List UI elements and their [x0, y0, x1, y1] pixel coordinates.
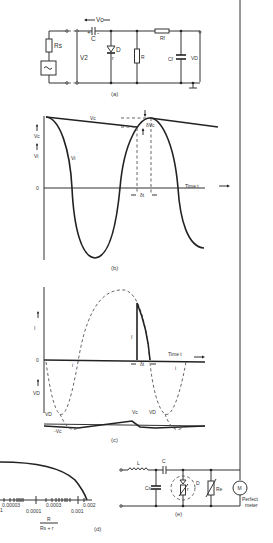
label-vd-axis: VD [33, 390, 40, 396]
graph-c: I 0 I i i δt Time t VD VD -Vc Vc VD (c) [33, 287, 205, 443]
label-d: D [116, 46, 121, 53]
label-vc-2: Vc [132, 409, 138, 415]
label-vc: Vc [96, 16, 104, 23]
label-vd: VD [191, 55, 198, 61]
label-meter-2: meter [245, 502, 258, 508]
label-vi-axis: Vi [34, 153, 38, 159]
label-delta-t: δt [140, 192, 145, 198]
label-l: L [137, 460, 140, 466]
label-cs: Cs [145, 485, 152, 491]
diode-icon [107, 46, 115, 52]
label-c: C [91, 35, 96, 42]
caption-a: (a) [111, 91, 118, 97]
label-vc-1: -Vc [54, 428, 62, 434]
xlabel-den: Rs + r [40, 525, 54, 531]
label-minus: - [97, 29, 99, 36]
tick-00003: 0.00003 [2, 502, 20, 508]
label-zero: 0 [36, 185, 39, 191]
label-vc-curve: Vc [90, 115, 96, 121]
label-cf: Cf [168, 56, 174, 62]
label-i-small-2: i [175, 365, 176, 371]
resistor-rf [155, 29, 169, 33]
tick-0003: 0.0003 [46, 502, 62, 508]
graph-d: 1 0.00003 0.0003 0.002 0.0001 0.001 R Rs… [0, 462, 101, 532]
tick-002: 0.002 [83, 502, 96, 508]
label-d: D [196, 480, 200, 486]
label-zero: 0 [36, 357, 39, 363]
label-re: Re [216, 486, 223, 492]
caption-b: (b) [111, 265, 118, 271]
resistor-r [135, 49, 140, 63]
graph-b: Vc Vi 0 Vc Vi δVc δt Time t (b) [34, 110, 230, 271]
inductor-l [128, 468, 148, 470]
caption-d: (d) [94, 526, 101, 532]
label-v2: V2 [80, 54, 88, 61]
label-vd-1: VD [45, 411, 52, 417]
label-vc-axis: Vc [34, 133, 40, 139]
tick-0001: 0.0001 [26, 508, 42, 514]
label-c: C [162, 458, 166, 464]
tick-001: 0.001 [71, 508, 84, 514]
label-rs: Rs [54, 42, 63, 49]
diode-icon [180, 480, 186, 484]
time-axis [44, 360, 205, 362]
label-r: R [141, 54, 145, 60]
label-vi-curve: Vi [71, 155, 75, 161]
label-time: Time t [168, 351, 182, 357]
label-i-axis: I [34, 325, 35, 331]
label-i-small-1: i [72, 362, 73, 368]
circuit-a: Vc Rs + - C V2 D r R Rf Cf VD (a) [41, 16, 201, 97]
label-vd-2: VD [149, 409, 156, 415]
circuit-e: L C Cs D r Re M Perfect meter (e) [120, 0, 259, 517]
label-time: Time t [185, 183, 199, 189]
label-rf: Rf [160, 35, 166, 41]
label-i-pulse: I [131, 334, 132, 340]
caption-c: (c) [111, 437, 118, 443]
label-r: r [187, 486, 189, 492]
current-pulse [137, 303, 150, 360]
xlabel-num: R [47, 516, 51, 522]
label-delta-vc: δVc [146, 122, 155, 128]
label-m: M [238, 485, 242, 491]
label-delta-t: δt [140, 361, 145, 367]
figure-canvas: Vc Rs + - C V2 D r R Rf Cf VD (a) [0, 0, 273, 543]
label-r-diode: r [112, 55, 114, 61]
resistor-rs [46, 39, 52, 52]
caption-e: (e) [175, 511, 182, 517]
response-curve [0, 462, 87, 500]
